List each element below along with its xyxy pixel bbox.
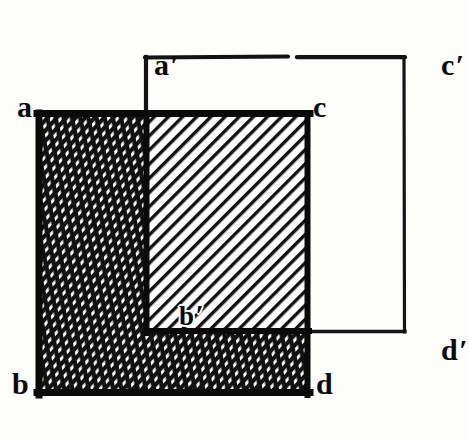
label-c: c — [313, 92, 326, 122]
label-d: d — [316, 369, 333, 399]
figure-canvas — [0, 0, 469, 440]
outline-right-edge — [404, 57, 405, 332]
label-c-prime: c′ — [411, 20, 464, 110]
label-a-prime-base: a — [154, 48, 169, 81]
label-c-prime-mark: ′ — [454, 48, 463, 81]
geometry-figure: a b c d a′ c′ d′ b′ — [0, 0, 469, 440]
label-a-prime-mark: ′ — [169, 48, 178, 81]
label-a: a — [17, 92, 32, 122]
label-c-prime-base: c — [441, 48, 454, 81]
label-b-prime-mark: ′ — [194, 298, 203, 331]
label-a-prime: a′ — [124, 20, 178, 110]
label-d-prime-base: d — [441, 333, 458, 366]
label-d-prime-mark: ′ — [458, 333, 467, 366]
left-strip-region-fill — [37, 113, 145, 395]
label-b-prime-base: b — [179, 301, 194, 331]
label-d-prime: d′ — [411, 305, 467, 395]
label-b-prime: b′ — [152, 273, 203, 357]
label-b: b — [12, 369, 29, 399]
